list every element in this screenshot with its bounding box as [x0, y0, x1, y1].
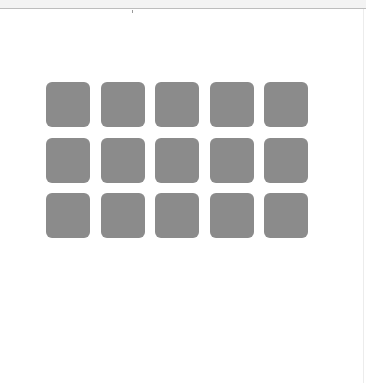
grid-tile-r3-c3[interactable] [155, 193, 199, 238]
grid-tile-r1-c3[interactable] [155, 82, 199, 127]
grid-tile-r2-c2[interactable] [101, 138, 145, 183]
grid-tile-r1-c4[interactable] [210, 82, 254, 127]
grid-tile-r3-c1[interactable] [46, 193, 90, 238]
grid-tile-r1-c1[interactable] [46, 82, 90, 127]
grid-tile-r1-c5[interactable] [264, 82, 308, 127]
toolbar-tick-mark [132, 10, 133, 13]
grid-tile-r2-c5[interactable] [264, 138, 308, 183]
grid-tile-r2-c4[interactable] [210, 138, 254, 183]
grid-tile-r1-c2[interactable] [101, 82, 145, 127]
grid-tile-r2-c1[interactable] [46, 138, 90, 183]
grid-tile-r2-c3[interactable] [155, 138, 199, 183]
right-scroll-edge [363, 9, 364, 383]
top-toolbar-strip [0, 0, 366, 9]
grid-tile-r3-c4[interactable] [210, 193, 254, 238]
grid-tile-r3-c2[interactable] [101, 193, 145, 238]
grid-tile-r3-c5[interactable] [264, 193, 308, 238]
tile-grid [46, 82, 308, 238]
